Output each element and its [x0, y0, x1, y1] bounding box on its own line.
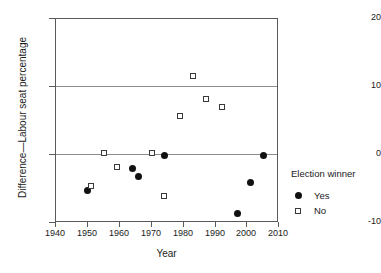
y-tick-label-0: 0	[335, 149, 381, 158]
data-point-no	[203, 96, 209, 102]
x-tick-2000	[246, 222, 247, 227]
x-tick-2010	[278, 222, 279, 227]
x-tick-1960	[119, 222, 120, 227]
gridline-y10	[56, 86, 277, 87]
data-point-yes	[129, 165, 136, 172]
data-point-yes	[234, 210, 241, 217]
filled-circle-icon	[295, 192, 309, 199]
data-point-no	[219, 104, 225, 110]
x-tick-1940	[55, 222, 56, 227]
data-point-yes	[247, 179, 254, 186]
plot-area	[55, 18, 278, 222]
data-point-no	[149, 150, 155, 156]
x-axis-title: Year	[55, 248, 278, 259]
x-tick-1950	[87, 222, 88, 227]
data-point-yes	[260, 152, 267, 159]
data-point-no	[101, 150, 107, 156]
legend-label-yes: Yes	[314, 190, 330, 201]
y-tick-label-20: 20	[335, 13, 381, 22]
open-square-icon	[295, 208, 309, 214]
x-tick-1990	[215, 222, 216, 227]
legend-label-no: No	[314, 205, 326, 216]
legend-item-no[interactable]: No	[291, 203, 379, 218]
data-point-yes	[135, 173, 142, 180]
data-point-no	[161, 193, 167, 199]
data-point-yes	[161, 152, 168, 159]
y-tick-label-10: 10	[335, 81, 381, 90]
y-tick-label-neg10: -10	[335, 217, 381, 226]
data-point-no	[190, 73, 196, 79]
chart-figure: 20 10 0 -10 1940 1950 1960 1970 1980 199…	[0, 0, 381, 273]
x-tick-label-2010: 2010	[258, 229, 298, 238]
data-point-no	[177, 113, 183, 119]
data-point-no	[114, 164, 120, 170]
x-tick-1980	[183, 222, 184, 227]
legend: Election winner Yes No	[291, 168, 379, 218]
x-tick-1970	[151, 222, 152, 227]
data-point-no	[88, 183, 94, 189]
y-axis-title: Difference—Labour seat percentage	[17, 18, 28, 218]
legend-title: Election winner	[291, 168, 379, 179]
legend-item-yes[interactable]: Yes	[291, 188, 379, 203]
